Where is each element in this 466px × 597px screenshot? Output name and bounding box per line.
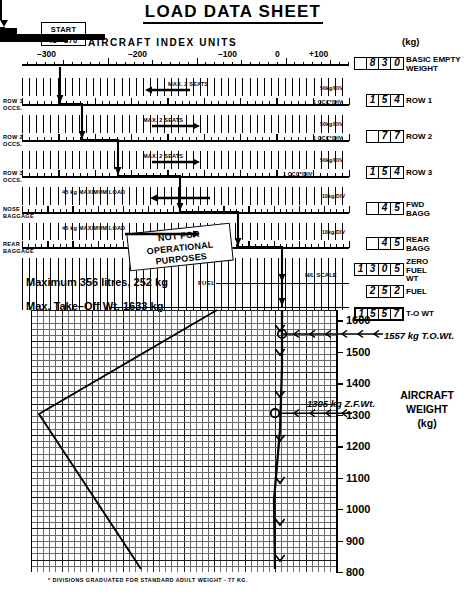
weight-tick <box>336 446 343 447</box>
weight-tick-label: 1100 <box>346 472 370 484</box>
weight-tick <box>336 572 343 573</box>
footnote: * DIVISIONS GRADUATED FOR STANDARD ADULT… <box>48 578 248 583</box>
track-chevron <box>275 555 284 561</box>
seat-arrow-row3-head <box>193 158 200 165</box>
seat-arrow-row2-head <box>193 122 200 129</box>
tow-leader-chevron <box>374 330 379 337</box>
weight-tick-label: 1400 <box>346 377 370 389</box>
aw-line-1: AIRCRAFT <box>390 388 464 402</box>
weight-tick <box>336 320 343 321</box>
cg-envelope-boundary <box>39 310 217 569</box>
chart-curves <box>31 310 336 572</box>
weight-tick <box>336 478 343 479</box>
aircraft-weight-axis-label: AIRCRAFT WEIGHT (kg) <box>390 388 464 430</box>
weight-tick-label: 800 <box>346 566 364 578</box>
weight-tick <box>336 509 343 510</box>
zfw-point <box>271 409 279 417</box>
weight-tick-label: 1200 <box>346 440 370 452</box>
weight-tick-label: 900 <box>346 535 364 547</box>
tow-annotation: 1557 kg T.O.Wt. <box>384 331 454 341</box>
track-chevron <box>275 519 284 525</box>
weight-tick <box>336 383 343 384</box>
weight-tick-label: 1300 <box>346 409 370 421</box>
load-arrow-rear-head <box>193 230 200 237</box>
load-arrow-fwd-head <box>150 194 157 201</box>
track-chevron <box>275 349 284 355</box>
weight-tick <box>336 415 343 416</box>
seat-arrow-row1-head <box>145 86 152 93</box>
weight-tick <box>336 541 343 542</box>
weight-axis-line <box>336 310 338 572</box>
tow-leader-chevron <box>358 330 363 337</box>
weight-tick-label: 1000 <box>346 503 370 515</box>
load-data-sheet: LOAD DATA SHEET START IU –270 AIRCRAFT I… <box>0 0 466 597</box>
aw-line-2: WEIGHT <box>390 402 464 416</box>
tow-leader-chevron <box>342 330 347 337</box>
weight-envelope-chart <box>31 310 336 572</box>
weight-tick <box>336 352 343 353</box>
aw-line-3: (kg) <box>390 416 464 430</box>
zfw-annotation: 1305 kg Z.F.Wt. <box>307 399 375 409</box>
track-chevron <box>275 477 284 483</box>
weight-tick-label: 1500 <box>346 346 370 358</box>
range-arrows <box>0 0 466 320</box>
